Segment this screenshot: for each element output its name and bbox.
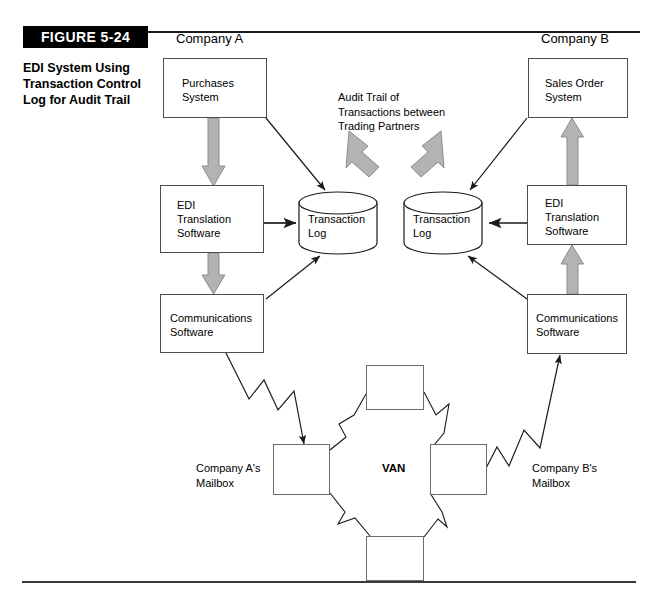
company-a-heading: Company A	[176, 31, 243, 46]
arrow-comm-a-to-log-a	[266, 256, 320, 299]
block-arrow-audit-trail-left	[346, 131, 379, 177]
transaction-log-b-label: Transaction Log	[413, 212, 470, 240]
edi-translation-b-label: EDI Translation Software	[545, 196, 599, 238]
arrow-comm-b-to-log-b	[468, 256, 527, 299]
block-arrow-edi-b-to-sales-order	[561, 118, 584, 185]
zigzag-mailbox-a-to-van-top	[330, 394, 366, 450]
company-b-mailbox-label: Company B's Mailbox	[532, 461, 597, 490]
company-a-mailbox-label: Company A's Mailbox	[196, 461, 260, 490]
arrow-purchases-to-log-a	[266, 118, 325, 190]
zigzag-mailbox-b-to-comm-b	[483, 355, 560, 474]
edi-translation-b-box: EDI Translation Software	[527, 185, 627, 245]
audit-trail-note: Audit Trail of Transactions between Trad…	[338, 90, 445, 134]
edi-translation-a-label: EDI Translation Software	[177, 198, 231, 240]
company-a-mailbox-box	[273, 444, 330, 495]
edi-translation-a-box: EDI Translation Software	[160, 185, 264, 253]
purchases-system-label: Purchases System	[182, 76, 234, 104]
van-node-bottom-box	[366, 536, 424, 581]
zigzag-comm-a-to-mailbox-a	[226, 353, 304, 444]
communications-a-label: Communications Software	[170, 311, 252, 339]
van-label: VAN	[382, 462, 405, 474]
communications-a-box: Communications Software	[160, 294, 264, 353]
communications-b-box: Communications Software	[527, 294, 627, 354]
zigzag-van-top-to-mailbox-b	[424, 392, 449, 450]
figure-number-badge: FIGURE 5-24	[23, 26, 148, 48]
communications-b-label: Communications Software	[536, 311, 618, 339]
block-arrow-audit-trail-right	[411, 131, 444, 177]
figure-page: FIGURE 5-24 EDI System Using Transaction…	[0, 0, 649, 603]
zigzag-mailbox-a-to-van-bottom	[330, 493, 370, 536]
block-arrow-comm-b-to-edi-b	[561, 245, 584, 294]
sales-order-system-label: Sales Order System	[545, 76, 604, 104]
bottom-rule-divider	[22, 581, 636, 583]
company-b-mailbox-box	[430, 444, 487, 495]
company-b-heading: Company B	[541, 31, 609, 46]
transaction-log-a-label: Transaction Log	[308, 212, 365, 240]
van-node-top-box	[366, 365, 424, 410]
zigzag-van-bottom-to-mailbox-b	[424, 493, 447, 537]
block-arrow-edi-a-to-comm-a	[202, 253, 225, 294]
purchases-system-box: Purchases System	[163, 58, 267, 118]
arrow-sales-order-to-log-b	[470, 118, 527, 190]
figure-caption: EDI System Using Transaction Control Log…	[23, 60, 163, 108]
sales-order-system-box: Sales Order System	[528, 58, 628, 118]
block-arrow-purchases-to-edi-a	[202, 118, 225, 186]
